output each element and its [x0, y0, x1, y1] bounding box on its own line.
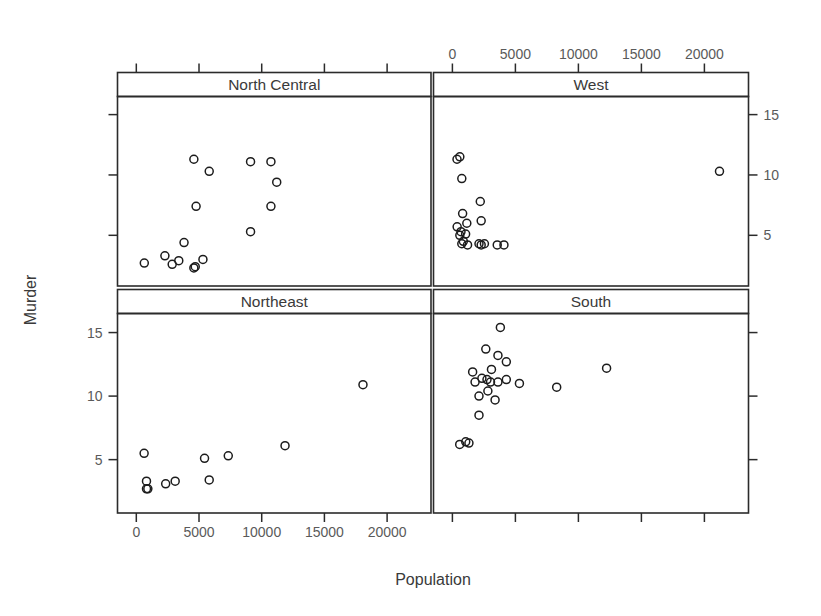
- xtick-label: 10000: [242, 524, 281, 540]
- data-point: [224, 452, 232, 460]
- xtick-label: 10000: [559, 46, 598, 62]
- data-point: [140, 259, 148, 267]
- ytick-label: 5: [764, 227, 772, 243]
- data-point: [487, 365, 495, 373]
- xtick-label: 15000: [622, 46, 661, 62]
- data-point: [180, 239, 188, 247]
- data-point: [161, 252, 169, 260]
- data-point: [281, 442, 289, 450]
- xtick-label: 0: [132, 524, 140, 540]
- data-point: [482, 345, 490, 353]
- data-point: [205, 476, 213, 484]
- data-point: [459, 210, 467, 218]
- y-axis-title: Murder: [22, 274, 39, 325]
- data-point: [496, 323, 504, 331]
- ytick-label: 10: [764, 167, 780, 183]
- strip-label-northeast: Northeast: [241, 293, 309, 310]
- data-point: [515, 379, 523, 387]
- data-point: [273, 178, 281, 186]
- data-point: [475, 411, 483, 419]
- data-point: [715, 167, 723, 175]
- data-point: [190, 155, 198, 163]
- data-point: [247, 158, 255, 166]
- data-point: [267, 158, 275, 166]
- panel-south: South: [434, 290, 758, 523]
- x-axis-title: Population: [395, 571, 471, 588]
- xtick-label: 15000: [305, 524, 344, 540]
- data-point: [502, 358, 510, 366]
- xtick-label: 5000: [183, 524, 214, 540]
- strip-label-south: South: [571, 293, 612, 310]
- data-point: [175, 257, 183, 265]
- xtick-label: 20000: [685, 46, 724, 62]
- panel-frame-2: [118, 314, 432, 514]
- data-point: [491, 396, 499, 404]
- data-point: [199, 255, 207, 263]
- data-point: [192, 202, 200, 210]
- panel-frame-3: [434, 314, 749, 514]
- data-point: [477, 217, 485, 225]
- data-point: [475, 392, 483, 400]
- data-point: [502, 376, 510, 384]
- plot-canvas: North CentralWest05000100001500020000510…: [0, 0, 821, 616]
- data-point: [142, 477, 150, 485]
- data-point: [171, 477, 179, 485]
- data-point: [267, 202, 275, 210]
- data-point: [359, 381, 367, 389]
- panel-west: West0500010000150002000051015: [434, 46, 780, 287]
- data-point: [463, 219, 471, 227]
- data-point: [469, 368, 477, 376]
- ytick-label: 5: [95, 452, 103, 468]
- panel-northeast: Northeast0500010000150002000051015: [87, 290, 431, 541]
- ytick-label: 15: [87, 325, 103, 341]
- xtick-label: 20000: [368, 524, 407, 540]
- xtick-label: 0: [449, 46, 457, 62]
- data-point: [603, 364, 611, 372]
- data-point: [247, 228, 255, 236]
- ytick-label: 10: [87, 388, 103, 404]
- strip-label-north-central: North Central: [228, 76, 320, 93]
- data-point: [484, 387, 492, 395]
- panel-frame-1: [434, 97, 749, 287]
- ytick-label: 15: [764, 107, 780, 123]
- xtick-label: 5000: [500, 46, 531, 62]
- data-point: [494, 351, 502, 359]
- data-point: [162, 480, 170, 488]
- strip-label-west: West: [573, 76, 609, 93]
- data-point: [476, 198, 484, 206]
- panel-north-central: North Central: [109, 64, 432, 287]
- data-point: [458, 175, 466, 183]
- data-point: [205, 167, 213, 175]
- data-point: [553, 383, 561, 391]
- lattice-scatterplot-figure: North CentralWest05000100001500020000510…: [0, 0, 821, 616]
- panel-frame-0: [118, 97, 432, 287]
- data-point: [140, 449, 148, 457]
- data-point: [201, 454, 209, 462]
